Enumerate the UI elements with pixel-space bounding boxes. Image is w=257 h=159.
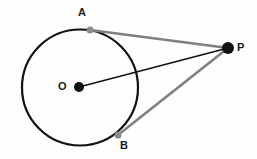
label-point-b: B	[120, 140, 128, 151]
tangent-point-a	[87, 27, 94, 34]
center-point-o	[74, 82, 84, 92]
geometry-figure: A O B P	[0, 0, 257, 159]
geometry-canvas	[0, 0, 257, 159]
label-point-p: P	[237, 42, 244, 53]
tangent-line-bp	[118, 48, 228, 135]
tangent-point-b	[115, 132, 122, 139]
radius-line-op	[79, 48, 228, 87]
label-point-o: O	[58, 81, 67, 92]
label-point-a: A	[78, 7, 86, 18]
external-point-p	[222, 42, 234, 54]
